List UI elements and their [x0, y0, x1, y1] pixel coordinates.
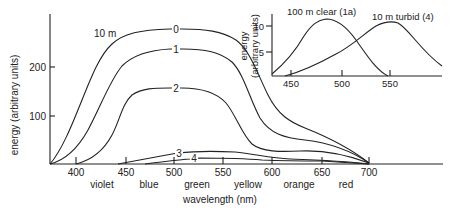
curve-2m — [76, 88, 369, 164]
color-label-red: red — [339, 179, 353, 190]
depth-annotation: 10 m — [94, 28, 116, 39]
y-tick-label-200: 200 — [29, 62, 46, 73]
inset-y-axis-title-line1: energy — [238, 31, 249, 60]
curve-label-4: 4 — [191, 153, 197, 164]
color-label-violet: violet — [90, 179, 114, 190]
x-axis-title: wavelength (nm) — [182, 194, 257, 205]
curve-labels: 0 1 2 3 4 — [172, 23, 198, 164]
x-tick-labels: 400 450 500 550 600 650 700 — [68, 167, 378, 178]
x-tick-label-500: 500 — [166, 167, 183, 178]
x-tick-label-650: 650 — [314, 167, 331, 178]
x-tick-label-400: 400 — [68, 167, 85, 178]
legend-100m-clear: 100 m clear (1a) — [287, 6, 356, 17]
color-band-labels: violet blue green yellow orange red — [90, 179, 353, 190]
spectral-energy-chart: 200 100 400 450 500 550 600 650 700 viol… — [0, 0, 453, 211]
x-tick-label-550: 550 — [215, 167, 232, 178]
curve-label-0: 0 — [173, 24, 179, 35]
inset-x-tick-label-500: 500 — [334, 78, 350, 89]
color-label-green: green — [184, 179, 210, 190]
color-label-yellow: yellow — [234, 179, 263, 190]
x-tick-label-450: 450 — [118, 167, 135, 178]
y-tick-label-100: 100 — [29, 111, 46, 122]
y-axis-title: energy (arbitrary units) — [9, 55, 20, 156]
x-tick-label-600: 600 — [264, 167, 281, 178]
curve-label-1: 1 — [173, 44, 179, 55]
inset-plot: 10 5 450 500 550 energy (arbitrary units… — [238, 0, 453, 90]
color-label-orange: orange — [283, 179, 315, 190]
inset-x-tick-label-450: 450 — [283, 78, 299, 89]
curve-label-3: 3 — [176, 148, 182, 159]
color-label-blue: blue — [140, 179, 159, 190]
legend-10m-turbid: 10 m turbid (4) — [372, 11, 434, 22]
curve-label-2: 2 — [173, 83, 179, 94]
inset-y-axis-title-line2: (arbitrary units) — [249, 14, 260, 78]
x-tick-label-700: 700 — [361, 167, 378, 178]
inset-x-tick-label-550: 550 — [382, 78, 398, 89]
